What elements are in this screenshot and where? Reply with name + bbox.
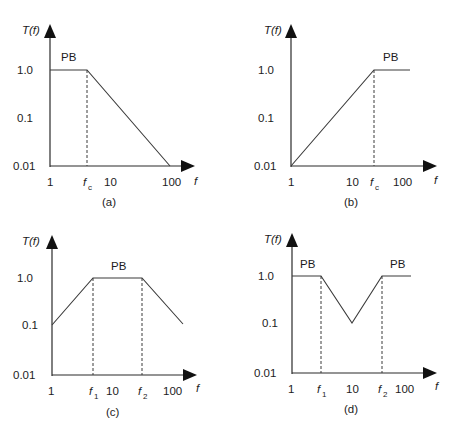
x-tick-100: 100 — [393, 176, 412, 188]
x-axis-title: f — [196, 382, 201, 394]
y-tick-0.1: 0.1 — [17, 112, 33, 124]
panel-a-low-pass: T(f) f 1.0 0.1 0.01 1 f c 10 100 PB (a) — [13, 24, 199, 208]
x-tick-1: 1 — [288, 383, 294, 395]
y-axis-arrow-icon — [286, 233, 298, 247]
y-tick-0.1: 0.1 — [262, 317, 278, 329]
y-tick-1: 1.0 — [17, 272, 33, 284]
panel-c-band-pass: T(f) f 1.0 0.1 0.01 1 f 1 10 f 2 100 PB … — [13, 235, 201, 418]
x-tick-100: 100 — [162, 176, 181, 188]
y-axis-title: T(f) — [264, 24, 282, 36]
passband-label: PB — [111, 260, 127, 272]
x-axis-arrow-icon — [423, 160, 437, 172]
panel-caption: (d) — [344, 403, 358, 415]
marker-f1: f 1 — [317, 383, 327, 399]
passband-label: PB — [383, 51, 399, 63]
response-curve — [291, 70, 410, 166]
y-tick-1: 1.0 — [17, 64, 33, 76]
marker-fc: f c — [370, 176, 379, 192]
x-axis-arrow-icon — [423, 367, 437, 379]
svg-text:1: 1 — [94, 392, 99, 401]
response-curve — [52, 278, 183, 325]
marker-fc: f c — [83, 176, 92, 192]
x-tick-10: 10 — [346, 176, 359, 188]
y-axis-arrow-icon — [285, 24, 297, 38]
svg-text:2: 2 — [383, 390, 388, 399]
panel-d-band-stop: T(f) f 1.0 0.1 0.01 1 f 1 10 f 2 100 PB … — [254, 233, 440, 415]
y-tick-0.01: 0.01 — [13, 369, 35, 381]
marker-f1: f 1 — [89, 385, 99, 401]
svg-text:2: 2 — [143, 392, 148, 401]
x-tick-10: 10 — [346, 383, 359, 395]
y-tick-1: 1.0 — [258, 64, 274, 76]
panel-caption: (a) — [102, 196, 116, 208]
response-curve — [50, 70, 170, 166]
y-tick-0.1: 0.1 — [258, 112, 274, 124]
y-tick-0.1: 0.1 — [22, 319, 38, 331]
passband-label-low: PB — [300, 258, 316, 270]
filter-response-diagram: T(f) f 1.0 0.1 0.01 1 f c 10 100 PB (a) … — [0, 0, 461, 435]
x-tick-1: 1 — [288, 176, 294, 188]
x-axis-arrow-icon — [183, 369, 197, 381]
y-tick-1: 1.0 — [258, 270, 274, 282]
x-axis-arrow-icon — [181, 160, 195, 172]
svg-text:c: c — [88, 183, 92, 192]
svg-text:1: 1 — [322, 390, 327, 399]
x-tick-1: 1 — [47, 176, 53, 188]
panel-b-high-pass: T(f) f 1.0 0.1 0.01 1 10 f c 100 PB (b) — [254, 24, 439, 208]
y-tick-0.01: 0.01 — [254, 367, 276, 379]
y-tick-0.01: 0.01 — [13, 160, 35, 172]
x-axis-title: f — [435, 380, 440, 392]
x-tick-1: 1 — [48, 385, 54, 397]
x-tick-100: 100 — [395, 383, 414, 395]
panel-caption: (c) — [106, 406, 120, 418]
response-curve — [292, 276, 411, 323]
y-axis-title: T(f) — [22, 24, 40, 36]
x-axis-title: f — [194, 175, 199, 187]
panel-caption: (b) — [344, 196, 358, 208]
marker-f2: f 2 — [138, 385, 148, 401]
svg-text:c: c — [375, 183, 379, 192]
x-tick-100: 100 — [163, 385, 182, 397]
y-axis-title: T(f) — [22, 235, 40, 247]
passband-label-high: PB — [390, 258, 406, 270]
marker-f2: f 2 — [378, 383, 388, 399]
x-tick-10: 10 — [104, 176, 117, 188]
x-axis-title: f — [434, 174, 439, 186]
passband-label: PB — [61, 51, 77, 63]
y-axis-arrow-icon — [44, 24, 56, 38]
y-axis-title: T(f) — [264, 233, 282, 245]
x-tick-10: 10 — [106, 385, 119, 397]
y-tick-0.01: 0.01 — [254, 160, 276, 172]
y-axis-arrow-icon — [46, 235, 58, 249]
